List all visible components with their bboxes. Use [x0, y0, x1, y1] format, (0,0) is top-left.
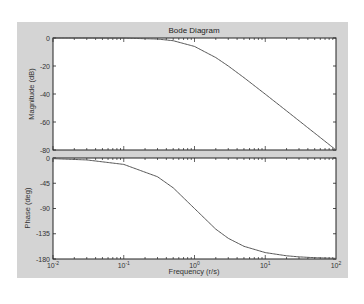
x-axis-label: Frequency (r/s): [169, 267, 220, 276]
y-tick-label: -60: [40, 119, 50, 126]
y-tick-label: -20: [40, 63, 50, 70]
y-tick-label: -135: [36, 230, 50, 237]
y-tick-label: -80: [40, 147, 50, 154]
y-tick-label: -90: [40, 205, 50, 212]
y-tick-label: -40: [40, 91, 50, 98]
magnitude-y-label: Magnitude (dB): [27, 68, 36, 120]
bode-figure: Bode Diagram 0-20-40-60-80 Magnitude (dB…: [0, 0, 364, 304]
phase-y-label: Phase (deg): [23, 187, 32, 228]
y-tick-label: 0: [46, 35, 50, 42]
magnitude-plot-area: [53, 38, 336, 150]
chart-title: Bode Diagram: [168, 26, 219, 35]
y-tick-label: 0: [46, 155, 50, 162]
y-tick-label: -45: [40, 180, 50, 187]
magnitude-axes: 0-20-40-60-80 Magnitude (dB): [27, 35, 336, 154]
phase-axes: 0-45-90-135-180 Phase (deg): [23, 155, 336, 263]
